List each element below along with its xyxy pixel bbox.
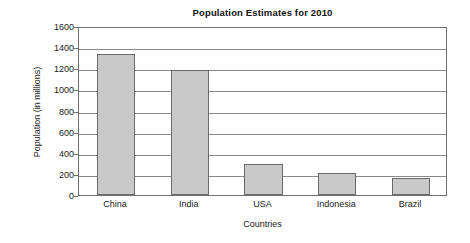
y-axis-tick-label: 1000 xyxy=(32,85,74,95)
x-axis-title: Countries xyxy=(78,219,447,229)
bar-usa xyxy=(244,164,282,195)
x-axis-tick-label: USA xyxy=(253,199,272,209)
y-axis-tick-label: 0 xyxy=(32,191,74,201)
x-axis-tick-label: Indonesia xyxy=(317,199,356,209)
y-axis-title-container: Population (in millions) xyxy=(14,27,28,196)
y-axis-tick-label: 1400 xyxy=(32,43,74,53)
x-axis-tick-labels: ChinaIndiaUSAIndonesiaBrazil xyxy=(78,199,447,215)
y-axis-ticks: 02004006008001000120014001600 xyxy=(28,27,74,196)
x-axis-tick-label: Brazil xyxy=(399,199,422,209)
chart-title: Population Estimates for 2010 xyxy=(78,7,447,18)
y-axis-tick-label: 1200 xyxy=(32,64,74,74)
x-axis-tick-label: India xyxy=(179,199,199,209)
x-axis-tick-label: China xyxy=(103,199,127,209)
population-bar-chart: Population Estimates for 2010 Population… xyxy=(0,0,470,243)
bar-brazil xyxy=(392,178,430,195)
bar-india xyxy=(171,70,209,195)
plot-area xyxy=(78,27,447,196)
bar-china xyxy=(97,54,135,195)
y-axis-tick-label: 400 xyxy=(32,149,74,159)
y-axis-tick-label: 600 xyxy=(32,128,74,138)
y-axis-tick-label: 1600 xyxy=(32,22,74,32)
y-axis-tick-label: 200 xyxy=(32,170,74,180)
bar-indonesia xyxy=(318,173,356,195)
bars xyxy=(79,28,446,195)
y-axis-tick-label: 800 xyxy=(32,107,74,117)
y-axis-tick-mark xyxy=(74,196,78,197)
